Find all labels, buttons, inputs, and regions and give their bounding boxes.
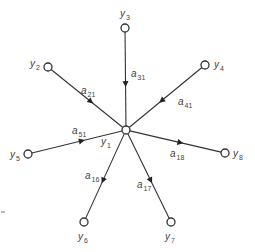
node-label-y1: y1 (100, 136, 111, 149)
edge-label-a51-subscript: 51 (79, 131, 87, 138)
node-label-y5-subscript: 5 (16, 155, 20, 162)
node-label-y3: y3 (119, 8, 130, 21)
edge-y3-y1 (125, 32, 126, 126)
node-y6 (80, 218, 88, 226)
edge-label-a51: a51 (72, 125, 86, 138)
node-label-y6-subscript: 6 (84, 237, 88, 244)
node-y5 (24, 150, 32, 158)
edge-label-a21-main: a (81, 85, 87, 96)
edge-label-a51-main: a (72, 125, 78, 136)
node-label-y4-main: y (213, 59, 220, 70)
edge-label-a18-subscript: 18 (177, 154, 185, 161)
node-y3 (121, 24, 129, 32)
edge-label-a41-main: a (178, 96, 184, 107)
node-label-y8-subscript: 8 (239, 154, 243, 161)
node-label-y8: y8 (232, 148, 243, 161)
node-y4 (201, 61, 209, 69)
edge-label-a16-main: a (85, 170, 91, 181)
node-label-y5: y5 (9, 149, 20, 162)
node-label-y5-main: y (9, 149, 16, 160)
node-label-y8-main: y (232, 148, 239, 159)
node-y8 (221, 149, 229, 157)
node-label-y2-main: y (29, 58, 36, 69)
edge-y1-y7 (128, 134, 169, 219)
arrowhead-icon (123, 81, 129, 87)
edge-label-a41-subscript: 41 (185, 102, 193, 109)
node-label-y4: y4 (213, 59, 224, 72)
edge-y2-y1 (51, 70, 123, 128)
edge-label-a17-main: a (137, 179, 143, 190)
node-label-y1-main: y (100, 136, 107, 147)
node-label-y6-main: y (77, 231, 84, 242)
edge-label-a17-subscript: 17 (144, 185, 152, 192)
node-label-y7: y7 (164, 231, 175, 244)
node-label-y2: y2 (29, 58, 40, 71)
edge-label-a18: a18 (170, 148, 184, 161)
node-label-y7-main: y (164, 231, 171, 242)
arrowhead-icon (78, 139, 85, 145)
node-label-y2-subscript: 2 (36, 64, 40, 71)
node-label-y3-main: y (119, 8, 126, 19)
edge-label-a16-subscript: 16 (92, 176, 100, 183)
node-y7 (167, 218, 175, 226)
node-y1 (122, 126, 130, 134)
node-label-y6: y6 (77, 231, 88, 244)
node-label-y7-subscript: 7 (171, 237, 175, 244)
node-y2 (44, 63, 52, 71)
signal-flow-graph: a21a31a41a51a16a17a18y1y2y3y4y5y6y7y8 (0, 0, 255, 252)
node-label-y3-subscript: 3 (126, 14, 130, 21)
edge-label-a41: a41 (178, 96, 192, 109)
edge-label-a31: a31 (131, 68, 145, 81)
edge-label-a18-main: a (170, 148, 176, 159)
node-label-y1-subscript: 1 (107, 142, 111, 149)
edge-label-a16: a16 (85, 170, 99, 183)
edge-label-a31-main: a (131, 68, 137, 79)
node-label-y4-subscript: 4 (220, 65, 224, 72)
edge-label-a21-subscript: 21 (88, 91, 96, 98)
arrowhead-icon (177, 139, 184, 145)
edge-label-a31-subscript: 31 (138, 74, 146, 81)
